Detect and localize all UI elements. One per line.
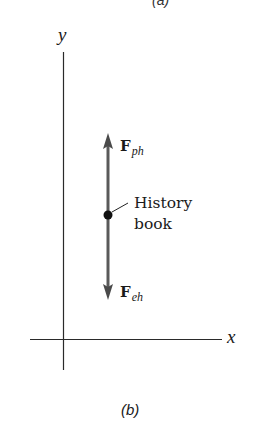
force-label-eh: Feh [120,285,143,303]
free-body-diagram: (a) y x Fph Feh History book (b) [0,0,258,424]
force-label-ph: Fph [120,139,144,157]
diagram-canvas [0,0,258,424]
x-axis-label: x [227,327,235,346]
force-symbol: F [120,283,131,301]
force-symbol: F [120,137,131,155]
label-leader-line [112,203,128,212]
y-axis-label: y [58,25,66,44]
partial-caption-a: (a) [152,0,169,7]
figure-caption: (b) [121,402,139,417]
object-dot [104,211,113,220]
force-subscript: eh [132,290,143,304]
force-subscript: ph [132,144,144,158]
object-label-line2: book [134,214,192,235]
object-label-line1: History [134,193,192,214]
object-label: History book [134,193,192,235]
